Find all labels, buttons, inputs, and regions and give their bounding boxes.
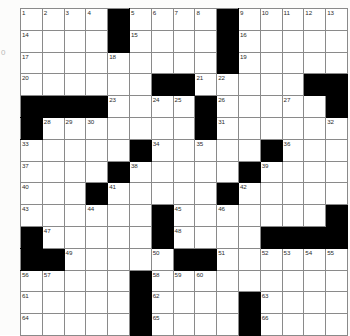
- crossword-cell[interactable]: [304, 139, 326, 161]
- crossword-cell[interactable]: [42, 183, 64, 205]
- crossword-cell-numbered[interactable]: 36: [282, 139, 304, 161]
- crossword-cell[interactable]: [42, 161, 64, 183]
- crossword-cell-numbered[interactable]: 15: [129, 30, 151, 52]
- crossword-cell[interactable]: [304, 117, 326, 139]
- crossword-cell[interactable]: [195, 52, 217, 74]
- crossword-cell[interactable]: [260, 52, 282, 74]
- crossword-cell[interactable]: [151, 52, 173, 74]
- crossword-cell[interactable]: [64, 226, 86, 248]
- crossword-cell-numbered[interactable]: 2: [42, 9, 64, 31]
- crossword-cell[interactable]: [64, 52, 86, 74]
- crossword-cell-numbered[interactable]: 13: [326, 9, 348, 31]
- crossword-cell[interactable]: [326, 314, 348, 336]
- crossword-cell[interactable]: [173, 139, 195, 161]
- crossword-cell[interactable]: [42, 205, 64, 227]
- crossword-cell[interactable]: [238, 226, 260, 248]
- crossword-cell[interactable]: [108, 74, 130, 96]
- crossword-cell[interactable]: [86, 30, 108, 52]
- crossword-cell[interactable]: [238, 139, 260, 161]
- crossword-cell[interactable]: [195, 30, 217, 52]
- crossword-cell[interactable]: [64, 30, 86, 52]
- crossword-cell-numbered[interactable]: 50: [151, 248, 173, 270]
- crossword-cell-numbered[interactable]: 61: [21, 292, 43, 314]
- crossword-cell[interactable]: [304, 30, 326, 52]
- crossword-cell-numbered[interactable]: 51: [217, 248, 239, 270]
- crossword-cell-numbered[interactable]: 23: [108, 96, 130, 118]
- crossword-cell[interactable]: [151, 183, 173, 205]
- crossword-cell[interactable]: [282, 314, 304, 336]
- crossword-cell[interactable]: [195, 183, 217, 205]
- crossword-cell-numbered[interactable]: 8: [195, 9, 217, 31]
- crossword-cell-numbered[interactable]: 19: [238, 52, 260, 74]
- crossword-cell-numbered[interactable]: 49: [64, 248, 86, 270]
- crossword-cell-numbered[interactable]: 60: [195, 270, 217, 292]
- crossword-cell[interactable]: [217, 270, 239, 292]
- crossword-cell[interactable]: [129, 74, 151, 96]
- crossword-cell[interactable]: [326, 161, 348, 183]
- crossword-cell[interactable]: [238, 270, 260, 292]
- crossword-cell-numbered[interactable]: 44: [86, 205, 108, 227]
- crossword-cell[interactable]: [64, 183, 86, 205]
- crossword-cell[interactable]: [42, 139, 64, 161]
- crossword-cell-numbered[interactable]: 54: [304, 248, 326, 270]
- crossword-cell-numbered[interactable]: 30: [86, 117, 108, 139]
- crossword-cell-numbered[interactable]: 20: [21, 74, 43, 96]
- crossword-cell[interactable]: [195, 226, 217, 248]
- crossword-cell-numbered[interactable]: 27: [282, 96, 304, 118]
- crossword-cell-numbered[interactable]: 39: [260, 161, 282, 183]
- crossword-cell[interactable]: [108, 248, 130, 270]
- crossword-cell-numbered[interactable]: 25: [173, 96, 195, 118]
- crossword-cell-numbered[interactable]: 12: [304, 9, 326, 31]
- crossword-cell[interactable]: [173, 161, 195, 183]
- crossword-cell[interactable]: [238, 117, 260, 139]
- crossword-cell[interactable]: [42, 314, 64, 336]
- crossword-cell-numbered[interactable]: 18: [108, 52, 130, 74]
- crossword-cell[interactable]: [217, 139, 239, 161]
- crossword-cell[interactable]: [195, 161, 217, 183]
- crossword-cell-numbered[interactable]: 65: [151, 314, 173, 336]
- crossword-cell[interactable]: [173, 314, 195, 336]
- crossword-cell-numbered[interactable]: 34: [151, 139, 173, 161]
- crossword-cell[interactable]: [64, 161, 86, 183]
- crossword-cell-numbered[interactable]: 1: [21, 9, 43, 31]
- crossword-cell-numbered[interactable]: 31: [217, 117, 239, 139]
- crossword-cell[interactable]: [64, 314, 86, 336]
- crossword-grid[interactable]: 1234567891011121314151617181920212223242…: [20, 8, 348, 336]
- crossword-cell[interactable]: [108, 270, 130, 292]
- crossword-cell-numbered[interactable]: 24: [151, 96, 173, 118]
- crossword-cell[interactable]: [42, 292, 64, 314]
- crossword-cell[interactable]: [195, 314, 217, 336]
- crossword-cell-numbered[interactable]: 14: [21, 30, 43, 52]
- crossword-cell-numbered[interactable]: 45: [173, 205, 195, 227]
- crossword-cell[interactable]: [173, 117, 195, 139]
- crossword-cell[interactable]: [129, 117, 151, 139]
- crossword-cell-numbered[interactable]: 32: [326, 117, 348, 139]
- crossword-cell[interactable]: [260, 117, 282, 139]
- crossword-cell[interactable]: [304, 292, 326, 314]
- crossword-cell[interactable]: [304, 161, 326, 183]
- crossword-cell[interactable]: [64, 74, 86, 96]
- crossword-cell-numbered[interactable]: 4: [86, 9, 108, 31]
- crossword-cell-numbered[interactable]: 26: [217, 96, 239, 118]
- crossword-cell[interactable]: [260, 183, 282, 205]
- crossword-cell-numbered[interactable]: 6: [151, 9, 173, 31]
- crossword-cell[interactable]: [86, 161, 108, 183]
- crossword-cell[interactable]: [108, 139, 130, 161]
- crossword-cell-numbered[interactable]: 40: [21, 183, 43, 205]
- crossword-cell[interactable]: [42, 30, 64, 52]
- crossword-cell-numbered[interactable]: 63: [260, 292, 282, 314]
- crossword-cell-numbered[interactable]: 41: [108, 183, 130, 205]
- crossword-cell[interactable]: [238, 96, 260, 118]
- crossword-cell-numbered[interactable]: 11: [282, 9, 304, 31]
- crossword-cell[interactable]: [129, 226, 151, 248]
- crossword-cell[interactable]: [282, 117, 304, 139]
- crossword-cell-numbered[interactable]: 48: [173, 226, 195, 248]
- crossword-cell[interactable]: [260, 205, 282, 227]
- crossword-cell-numbered[interactable]: 10: [260, 9, 282, 31]
- crossword-cell[interactable]: [129, 248, 151, 270]
- crossword-cell-numbered[interactable]: 16: [238, 30, 260, 52]
- crossword-cell[interactable]: [260, 30, 282, 52]
- crossword-cell[interactable]: [108, 226, 130, 248]
- crossword-cell[interactable]: [282, 74, 304, 96]
- crossword-cell[interactable]: [326, 139, 348, 161]
